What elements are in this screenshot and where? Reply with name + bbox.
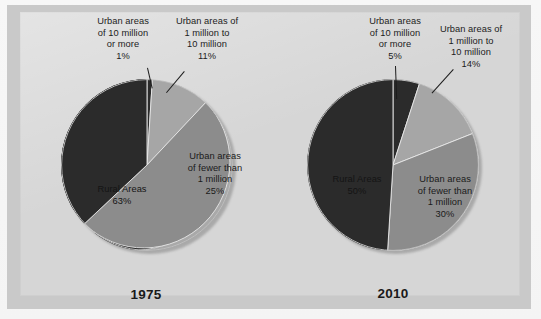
slice-rural-2010[interactable] bbox=[307, 79, 393, 251]
pie-chart-1975: Urban areas of 10 million or more 1% Urb… bbox=[14, 6, 269, 306]
pie-graphic-2010 bbox=[307, 79, 479, 251]
label-rural-2010: Rural Areas 50% bbox=[317, 174, 397, 197]
pie-slices-2010 bbox=[307, 79, 479, 251]
label-megacity-2010: Urban areas of 10 million or more 5% bbox=[356, 16, 434, 62]
label-large-urban-2010: Urban areas of 1 million to 10 million 1… bbox=[428, 24, 514, 70]
label-megacity-1975: Urban areas of 10 million or more 1% bbox=[84, 16, 162, 62]
label-small-urban-1975: Urban areas of fewer than 1 million 25% bbox=[173, 151, 257, 197]
year-label-1975: 1975 bbox=[86, 287, 206, 302]
label-small-urban-2010: Urban areas of fewer than 1 million 30% bbox=[399, 174, 491, 220]
label-rural-1975: Rural Areas 63% bbox=[82, 184, 162, 207]
pie-chart-2010: Urban areas of 10 million or more 5% Urb… bbox=[265, 6, 520, 306]
year-label-2010: 2010 bbox=[333, 286, 453, 301]
label-large-urban-1975: Urban areas of 1 million to 10 million 1… bbox=[165, 16, 249, 62]
